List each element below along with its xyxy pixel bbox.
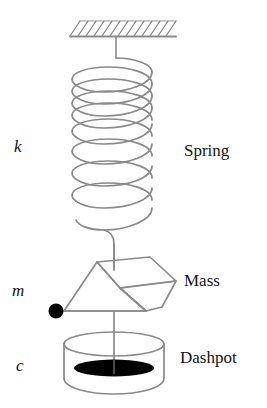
ceiling-support-icon <box>70 21 176 37</box>
damping-variable-label: c <box>16 357 24 374</box>
mass-block-icon <box>64 257 176 311</box>
dashpot-part-label: Dashpot <box>180 349 237 366</box>
helical-spring-icon <box>72 58 152 268</box>
diagram-canvas <box>0 0 267 408</box>
stiffness-variable-label: k <box>14 138 22 155</box>
ceiling-hatch-lines <box>70 21 176 36</box>
pivot-node-dot-icon <box>49 304 64 319</box>
spring-part-label: Spring <box>184 142 229 159</box>
mass-variable-label: m <box>12 282 24 299</box>
mass-part-label: Mass <box>184 272 220 289</box>
spring-mass-dashpot-diagram: k m c Spring Mass Dashpot <box>0 0 267 408</box>
